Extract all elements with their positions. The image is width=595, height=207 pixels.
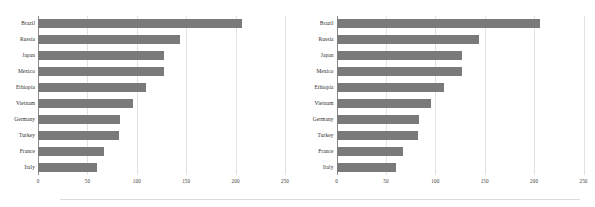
- bar-row: Italy: [38, 163, 285, 172]
- category-label: Vietnam: [16, 99, 35, 108]
- x-tick-0: 0: [335, 178, 338, 184]
- x-tick-150: 150: [481, 178, 489, 184]
- x-tick-250: 250: [579, 178, 587, 184]
- category-label: Germany: [14, 115, 35, 124]
- category-label: Turkey: [318, 131, 334, 140]
- bottom-divider: [60, 199, 580, 200]
- category-label: Italy: [323, 163, 333, 172]
- bar-mexico: [38, 67, 164, 76]
- bar-row: Ethiopia: [337, 83, 584, 92]
- x-tick-50: 50: [383, 178, 388, 184]
- x-tick-150: 150: [182, 178, 190, 184]
- bar-germany: [337, 115, 419, 124]
- bar-russia: [38, 35, 180, 44]
- bar-vietnam: [337, 99, 432, 108]
- bar-row: Mexico: [38, 67, 285, 76]
- bar-row: France: [38, 147, 285, 156]
- bar-row: Russia: [38, 35, 285, 44]
- x-axis-ticks-right: 0 50 100 150 200 250: [337, 178, 584, 190]
- bar-row: Germany: [337, 115, 584, 124]
- chart-panel-right: Brazil Russia Japan Mexico Ethiopia: [298, 0, 595, 207]
- category-label: Vietnam: [315, 99, 334, 108]
- bar-row: Ethiopia: [38, 83, 285, 92]
- category-label: Russia: [20, 35, 35, 44]
- bar-row: Mexico: [337, 67, 584, 76]
- bar-turkey: [337, 131, 418, 140]
- bar-row: Vietnam: [337, 99, 584, 108]
- plot-area-right: Brazil Russia Japan Mexico Ethiopia: [337, 16, 584, 182]
- bar-turkey: [38, 131, 119, 140]
- bar-brazil: [38, 19, 242, 28]
- bar-row: Italy: [337, 163, 584, 172]
- bar-row: Turkey: [337, 131, 584, 140]
- category-label: France: [318, 147, 333, 156]
- category-label: Mexico: [316, 67, 333, 76]
- chart-panel-left: Brazil Russia Japan Mexico Ethiopia: [0, 0, 298, 207]
- category-label: Turkey: [19, 131, 35, 140]
- plot-area-left: Brazil Russia Japan Mexico Ethiopia: [38, 16, 285, 182]
- category-label: Germany: [313, 115, 334, 124]
- bar-germany: [38, 115, 120, 124]
- bar-brazil: [337, 19, 541, 28]
- gridline-250: [285, 16, 286, 175]
- bar-row: Japan: [38, 51, 285, 60]
- bar-row: Japan: [337, 51, 584, 60]
- x-tick-250: 250: [281, 178, 289, 184]
- category-label: Mexico: [18, 67, 35, 76]
- bar-italy: [38, 163, 97, 172]
- category-label: Japan: [22, 51, 35, 60]
- bar-vietnam: [38, 99, 133, 108]
- bar-russia: [337, 35, 479, 44]
- x-axis-ticks-left: 0 50 100 150 200 250: [38, 178, 285, 190]
- bar-mexico: [337, 67, 463, 76]
- bar-row: France: [337, 147, 584, 156]
- bar-japan: [337, 51, 463, 60]
- category-label: Ethiopia: [16, 83, 35, 92]
- bar-row: Russia: [337, 35, 584, 44]
- chart-panels: Brazil Russia Japan Mexico Ethiopia: [0, 0, 595, 207]
- bar-rows-right: Brazil Russia Japan Mexico Ethiopia: [337, 16, 584, 175]
- bar-italy: [337, 163, 396, 172]
- x-tick-100: 100: [431, 178, 439, 184]
- category-label: Brazil: [21, 19, 35, 28]
- bar-row: Vietnam: [38, 99, 285, 108]
- category-label: Brazil: [320, 19, 334, 28]
- bar-france: [337, 147, 403, 156]
- category-label: Ethiopia: [314, 83, 333, 92]
- category-label: France: [20, 147, 35, 156]
- category-label: Italy: [25, 163, 35, 172]
- category-label: Russia: [319, 35, 334, 44]
- bar-ethiopia: [38, 83, 146, 92]
- gridline-250: [584, 16, 585, 175]
- category-label: Japan: [321, 51, 334, 60]
- x-tick-50: 50: [85, 178, 90, 184]
- x-tick-200: 200: [530, 178, 538, 184]
- bar-rows-left: Brazil Russia Japan Mexico Ethiopia: [38, 16, 285, 175]
- bar-row: Brazil: [38, 19, 285, 28]
- x-tick-100: 100: [133, 178, 141, 184]
- bar-ethiopia: [337, 83, 445, 92]
- bar-row: Turkey: [38, 131, 285, 140]
- bar-row: Brazil: [337, 19, 584, 28]
- x-tick-200: 200: [232, 178, 240, 184]
- bar-france: [38, 147, 104, 156]
- bar-japan: [38, 51, 164, 60]
- bar-row: Germany: [38, 115, 285, 124]
- x-tick-0: 0: [37, 178, 40, 184]
